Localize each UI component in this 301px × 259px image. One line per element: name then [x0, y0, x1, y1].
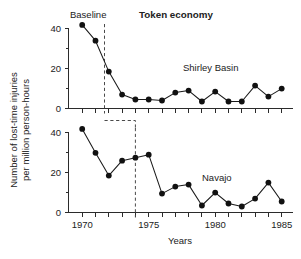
top-panel-axes — [69, 28, 293, 109]
panel-shirley-basin: 40 20 0 — [50, 22, 292, 114]
bottom-yticklabel-40: 40 — [50, 127, 61, 138]
top-yticklabel-20: 20 — [50, 63, 61, 74]
panel-phase-connector — [105, 121, 136, 131]
bottom-panel-axes — [69, 132, 293, 213]
xticklabel-1985: 1985 — [271, 219, 292, 230]
xticklabel-1975: 1975 — [138, 219, 159, 230]
series-annotation-shirley-basin: Shirley Basin — [183, 62, 238, 73]
y-axis-title-line1: Number of lost-time injuries — [8, 72, 19, 188]
bottom-xticks — [82, 213, 282, 218]
xticklabel-1980: 1980 — [205, 219, 226, 230]
bottom-yticklabel-0: 0 — [56, 207, 61, 218]
figure-container: Baseline Token economy 40 20 0 — [0, 0, 301, 259]
navajo-points — [79, 126, 284, 209]
series-annotation-navajo: Navajo — [202, 172, 232, 183]
x-axis-title: Years — [168, 235, 192, 246]
bottom-yticklabel-20: 20 — [50, 167, 61, 178]
xticklabel-1970: 1970 — [72, 219, 93, 230]
top-xticks — [82, 109, 282, 114]
top-yticklabel-40: 40 — [50, 23, 61, 34]
panel-navajo: 40 20 0 — [50, 126, 292, 230]
navajo-line — [82, 129, 282, 207]
phase-label-baseline: Baseline — [70, 9, 106, 20]
y-axis-title-line2: per million person-hours — [20, 79, 31, 181]
top-yticklabel-0: 0 — [56, 103, 61, 114]
injury-rate-line-chart: Baseline Token economy 40 20 0 — [0, 0, 301, 259]
shirley-basin-line — [82, 25, 282, 102]
phase-label-token-economy: Token economy — [139, 9, 213, 20]
